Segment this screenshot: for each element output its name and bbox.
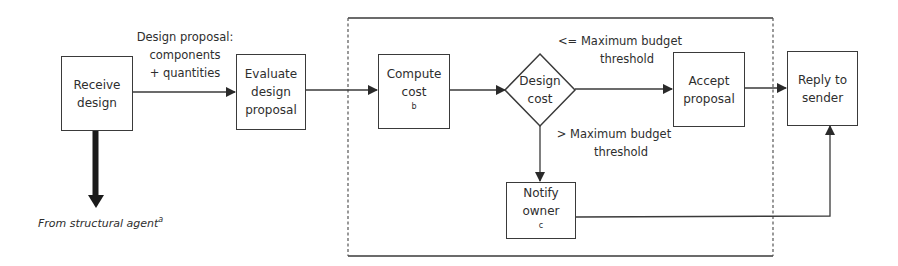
- source-label-structural-agent: From structural agenta: [38, 215, 163, 233]
- node-receive-design: Receive design: [61, 56, 133, 131]
- node-notify-owner: Notify ownerc: [506, 182, 576, 239]
- footnote-c: c: [539, 221, 543, 230]
- heavy-arrow-from-structural-agent: [88, 130, 104, 208]
- node-design-cost-decision: Design cost: [505, 72, 575, 108]
- footnote-b: b: [411, 102, 416, 111]
- edge-label-design-proposal: Design proposal: components + quantities: [130, 28, 240, 82]
- node-reply-to-sender: Reply to sender: [787, 51, 858, 126]
- node-evaluate-design-proposal: Evaluate design proposal: [236, 54, 306, 130]
- edge-label-over-budget: > Maximum budget threshold: [549, 125, 679, 161]
- node-compute-cost: Compute costb: [378, 54, 450, 129]
- edge-label-under-budget: <= Maximum budget threshold: [550, 32, 690, 68]
- flowchart-canvas: Receive design Evaluate design proposal …: [0, 0, 898, 266]
- footnote-a: a: [158, 215, 163, 224]
